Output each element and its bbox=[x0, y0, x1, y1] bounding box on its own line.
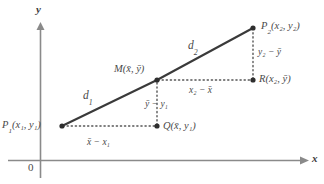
distance-label-d2: d2 bbox=[188, 40, 198, 52]
dimension-label-y-upper: y₂ − ȳ bbox=[258, 48, 281, 58]
y-axis-label: y bbox=[36, 4, 41, 15]
point-r bbox=[250, 77, 255, 82]
point-label-p1-sub: 1 bbox=[8, 127, 12, 135]
x-axis-label: x bbox=[312, 153, 318, 164]
x-axis bbox=[8, 157, 309, 165]
y-axis bbox=[37, 22, 45, 178]
point-label-q-name: Q bbox=[163, 120, 171, 131]
point-label-p1: P1(x₁, y₁) bbox=[2, 120, 41, 131]
point-label-m: M(x̄, ȳ) bbox=[114, 64, 144, 75]
point-label-r: R(x₂, ȳ) bbox=[259, 74, 291, 85]
point-m bbox=[154, 77, 159, 82]
dimension-label-x-upper: x₂ − x̄ bbox=[189, 86, 212, 96]
distance-label-d2-sub: 2 bbox=[194, 48, 198, 57]
distance-label-d1: d1 bbox=[83, 90, 93, 102]
segment-d2 bbox=[157, 28, 253, 80]
point-label-q-args: (x̄, y₁) bbox=[171, 120, 196, 131]
point-label-p2: P2(x₂, y₂) bbox=[261, 21, 300, 32]
dimension-label-y-lower: ȳ − y₁ bbox=[145, 100, 168, 110]
origin-label: 0 bbox=[28, 162, 34, 173]
dimension-label-x-lower: x̄ − x₁ bbox=[87, 138, 110, 148]
point-label-m-args: (x̄, ȳ) bbox=[123, 63, 145, 74]
point-label-p1-args: (x₁, y₁) bbox=[12, 119, 41, 130]
segment-d1 bbox=[62, 80, 157, 126]
point-label-m-name: M bbox=[114, 63, 123, 74]
point-q bbox=[154, 123, 159, 128]
distance-label-d2-name: d bbox=[188, 39, 194, 51]
point-label-q: Q(x̄, y₁) bbox=[163, 121, 196, 132]
distance-label-d1-sub: 1 bbox=[89, 98, 93, 107]
point-p1 bbox=[59, 123, 64, 128]
distance-label-d1-name: d bbox=[83, 89, 89, 101]
point-label-p2-sub: 2 bbox=[267, 28, 271, 36]
point-p2 bbox=[250, 25, 255, 30]
point-label-r-args: (x₂, ȳ) bbox=[265, 73, 290, 84]
point-label-p2-args: (x₂, y₂) bbox=[271, 20, 300, 31]
geometry-figure: y x 0 P1(x₁, y₁) P2(x₂, y₂) M(x̄, ȳ) Q(… bbox=[0, 0, 324, 184]
